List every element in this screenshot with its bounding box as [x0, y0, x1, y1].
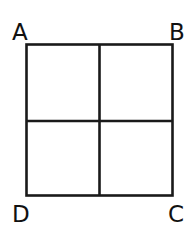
label-b: B [169, 19, 185, 45]
label-c: C [168, 201, 184, 227]
label-d: D [12, 201, 30, 227]
label-a: A [12, 19, 28, 45]
square-grid [27, 45, 173, 196]
square-diagram: A B C D [0, 0, 195, 233]
